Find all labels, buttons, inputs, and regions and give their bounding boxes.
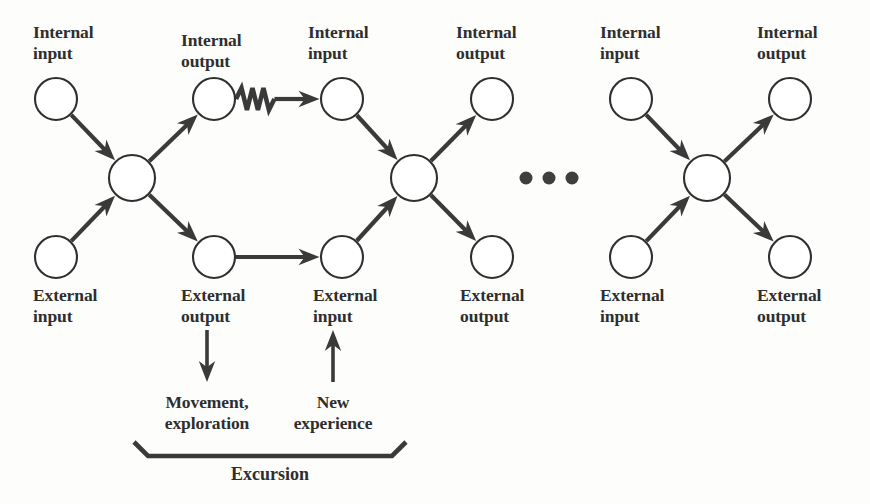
external-input-node-1 bbox=[35, 236, 77, 278]
edge-internal-input-3-to-hub-3-shaft bbox=[646, 115, 680, 151]
internal-input-node-1 bbox=[35, 78, 77, 120]
hub-node-2 bbox=[391, 155, 437, 201]
label-external-output-2: External output bbox=[460, 285, 524, 326]
internal-output-node-2 bbox=[471, 78, 513, 120]
internal-input-node-2 bbox=[321, 78, 363, 120]
edge-hub-1-to-internal-output-1-shaft bbox=[149, 124, 188, 161]
label-external-output-3: External output bbox=[757, 285, 821, 326]
edge-hub-2-to-internal-output-2-shaft bbox=[431, 125, 467, 161]
label-excursion: Excursion bbox=[231, 464, 309, 485]
hub-node-3 bbox=[684, 155, 730, 201]
excursion-bracket bbox=[134, 442, 406, 456]
bracket-layer bbox=[134, 442, 406, 456]
internal-input-node-3 bbox=[610, 78, 652, 120]
label-external-input-1: External input bbox=[33, 285, 97, 326]
internal-output-node-3 bbox=[769, 78, 811, 120]
external-output-node-2 bbox=[471, 236, 513, 278]
continuation-ellipsis-dot-1 bbox=[520, 172, 533, 185]
vertical-arrows-layer bbox=[199, 330, 341, 382]
edge-external-input-1-to-hub-1-shaft bbox=[71, 206, 105, 242]
edge-hub-3-to-external-output-3-shaft bbox=[724, 195, 763, 233]
edge-external-input-3-to-hub-3-shaft bbox=[646, 206, 680, 242]
label-internal-output-3: Internal output bbox=[757, 22, 817, 63]
edge-internal-output-1-to-internal-input-2-zigzag bbox=[236, 88, 274, 110]
diagram-canvas bbox=[0, 0, 870, 504]
edge-external-input-2-to-hub-2-shaft bbox=[357, 206, 388, 241]
nodes-layer bbox=[35, 78, 811, 278]
external-input-node-3 bbox=[610, 236, 652, 278]
edge-internal-input-2-to-hub-2-shaft bbox=[357, 115, 388, 150]
label-internal-input-2: Internal input bbox=[308, 22, 368, 63]
label-external-input-3: External input bbox=[600, 285, 664, 326]
external-input-node-2 bbox=[321, 236, 363, 278]
label-new-experience: New experience bbox=[294, 392, 373, 433]
label-internal-input-1: Internal input bbox=[33, 22, 93, 63]
external-output-node-3 bbox=[769, 236, 811, 278]
excursion-diagram: Internal inputInternal outputInternal in… bbox=[0, 0, 870, 504]
label-internal-input-3: Internal input bbox=[600, 22, 660, 63]
external-output-node-1 bbox=[193, 236, 235, 278]
continuation-ellipsis-dot-2 bbox=[543, 172, 556, 185]
label-external-output-1: External output bbox=[181, 285, 245, 326]
edge-hub-2-to-external-output-2-shaft bbox=[431, 195, 467, 231]
ellipsis-layer bbox=[520, 172, 579, 185]
edge-hub-3-to-internal-output-3-shaft bbox=[724, 124, 763, 162]
label-movement-exploration: Movement, exploration bbox=[165, 392, 249, 433]
label-internal-output-2: Internal output bbox=[456, 22, 516, 63]
internal-output-node-1 bbox=[193, 78, 235, 120]
label-external-input-2: External input bbox=[313, 285, 377, 326]
hub-node-1 bbox=[109, 155, 155, 201]
continuation-ellipsis-dot-3 bbox=[566, 172, 579, 185]
edge-hub-1-to-external-output-1-shaft bbox=[149, 195, 188, 232]
label-internal-output-1: Internal output bbox=[181, 30, 241, 71]
edge-internal-input-1-to-hub-1-shaft bbox=[71, 115, 105, 151]
